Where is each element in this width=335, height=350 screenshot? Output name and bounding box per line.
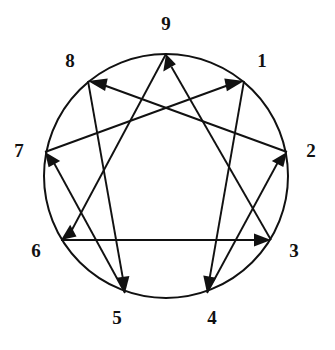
hexad-edge-8-to-5: [88, 81, 123, 279]
point-label-6: 6: [31, 240, 41, 261]
hexad-edge-7-to-1: [45, 85, 230, 153]
arrow-head-to-2: [272, 152, 287, 167]
hexad-group: [45, 78, 287, 293]
hexad-edge-1-to-4: [210, 81, 245, 279]
point-label-2: 2: [306, 140, 316, 161]
enneagram-diagram: 9 1 2 3 4 5 6 7 8: [0, 0, 335, 350]
triangle-edge-9-to-6: [71, 54, 167, 233]
point-label-1: 1: [257, 50, 267, 71]
point-label-3: 3: [289, 240, 299, 261]
point-label-7: 7: [14, 140, 24, 161]
point-label-9: 9: [161, 13, 171, 34]
enneagram-circle: [44, 54, 288, 298]
point-label-4: 4: [207, 307, 217, 328]
enneagram-canvas: 9 1 2 3 4 5 6 7 8: [0, 0, 335, 350]
point-label-5: 5: [112, 307, 122, 328]
hexad-edge-2-to-8: [102, 85, 287, 153]
point-label-8: 8: [65, 50, 75, 71]
arrow-head-to-7: [45, 152, 60, 167]
